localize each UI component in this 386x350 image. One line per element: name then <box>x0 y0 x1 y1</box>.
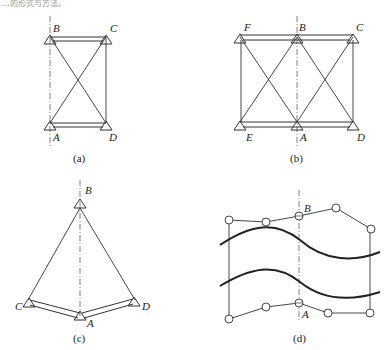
station-circle-icon <box>332 204 340 212</box>
point-label-a: A <box>301 308 309 320</box>
river-bank-lower <box>220 270 380 298</box>
point-label-d: D <box>108 131 117 143</box>
header-text-fragment: …的形式与方法。 <box>2 0 66 8</box>
point-label-a: A <box>52 131 60 143</box>
station-circle-icon <box>366 309 374 317</box>
station-circle-icon <box>262 303 270 311</box>
point-label-f: F <box>243 21 251 33</box>
panel-a: B C A D (a) <box>44 16 118 165</box>
panel-b: F B C E A D (b) <box>234 16 365 165</box>
point-label-a: A <box>299 131 307 143</box>
point-label-b: B <box>304 202 311 214</box>
caption-a: (a) <box>73 152 86 165</box>
station-circle-icon <box>367 225 375 233</box>
caption-d: (d) <box>293 332 306 345</box>
point-label-c: C <box>15 300 23 312</box>
point-label-a: A <box>86 317 94 329</box>
river-bank-upper <box>220 227 380 258</box>
point-label-e: E <box>245 131 253 143</box>
point-label-b: B <box>299 21 306 33</box>
station-circle-icon <box>262 218 270 226</box>
station-circle-icon <box>324 309 332 317</box>
caption-c: (c) <box>73 332 86 345</box>
point-label-c: C <box>110 22 118 34</box>
station-circle-icon <box>225 315 233 323</box>
panel-d: B A (d) <box>220 190 380 345</box>
point-label-d: D <box>356 131 365 143</box>
point-label-d: D <box>141 300 150 312</box>
panel-c: B C A D (c) <box>15 180 150 345</box>
point-label-c: C <box>356 21 364 33</box>
station-circle-icon <box>225 216 233 224</box>
figure-canvas: …的形式与方法。 B C A D (a) <box>0 0 386 350</box>
point-label-b: B <box>53 22 60 34</box>
point-label-b: B <box>85 184 92 196</box>
caption-b: (b) <box>290 152 303 165</box>
